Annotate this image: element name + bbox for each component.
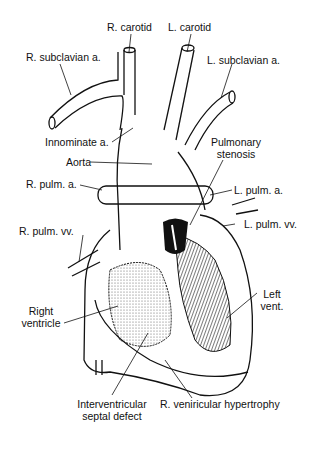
label-interventricular-septal-defect: Interventricular septal defect bbox=[74, 398, 150, 422]
label-right-ventricle-line1: Right bbox=[16, 305, 66, 317]
label-l-carotid: L. carotid bbox=[168, 21, 211, 33]
label-ivsd-line2: septal defect bbox=[74, 410, 150, 422]
label-ivsd-line1: Interventricular bbox=[74, 398, 150, 410]
label-pulmonary-stenosis-line2: stenosis bbox=[209, 148, 263, 160]
label-l-pulm-vv: L. pulm. vv. bbox=[244, 218, 297, 230]
label-right-ventricle-line2: ventricle bbox=[16, 317, 66, 329]
label-l-pulm-a: L. pulm. a. bbox=[234, 184, 283, 196]
heart-diagram: R. carotid L. carotid R. subclavian a. L… bbox=[0, 0, 316, 451]
label-left-vent-line1: Left bbox=[255, 288, 289, 300]
label-left-vent: Left vent. bbox=[255, 288, 289, 312]
label-rv-hypertrophy: R. veniricular hypertrophy bbox=[160, 398, 280, 410]
label-r-pulm-a: R. pulm. a. bbox=[26, 178, 77, 190]
label-r-carotid: R. carotid bbox=[107, 21, 152, 33]
label-innominate: Innominate a. bbox=[45, 136, 109, 148]
label-left-vent-line2: vent. bbox=[255, 300, 289, 312]
label-pulmonary-stenosis-line1: Pulmonary bbox=[209, 136, 263, 148]
label-r-subclavian: R. subclavian a. bbox=[26, 51, 101, 63]
label-pulmonary-stenosis: Pulmonary stenosis bbox=[209, 136, 263, 160]
label-aorta: Aorta bbox=[66, 156, 91, 168]
label-right-ventricle: Right ventricle bbox=[16, 305, 66, 329]
label-l-subclavian: L. subclavian a. bbox=[207, 54, 280, 66]
label-r-pulm-vv: R. pulm. vv. bbox=[19, 225, 74, 237]
